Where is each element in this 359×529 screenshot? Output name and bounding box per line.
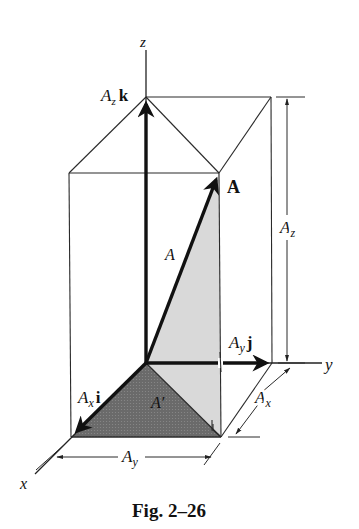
label-Az-k: Azk	[100, 86, 129, 107]
label-dimension-Ax: Ax	[254, 388, 271, 410]
label-A-vector: A	[227, 177, 240, 197]
y-axis-label: y	[323, 355, 333, 374]
label-Ay-j: Ayj	[228, 333, 252, 355]
z-axis-label: z	[139, 34, 146, 50]
label-Ax-i: Axi	[77, 388, 101, 410]
label-dimension-Az: Az	[279, 218, 295, 240]
figure-caption: Fig. 2–26	[132, 500, 206, 521]
vector-components-diagram: z y x Azk A A Ayj Axi A′ Az Ax Ay Fig. 2…	[0, 0, 359, 529]
label-dimension-Ay: Ay	[121, 447, 138, 469]
label-A-prime: A′	[150, 394, 165, 411]
x-axis-label: x	[19, 475, 27, 492]
label-A-magnitude: A	[164, 246, 175, 263]
